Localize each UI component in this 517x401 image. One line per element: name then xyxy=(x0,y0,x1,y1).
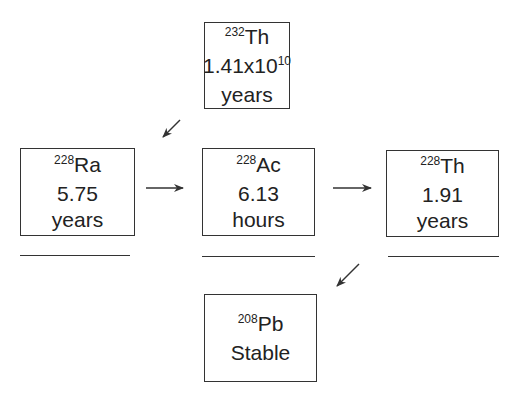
node-th228: 228Th 1.91 years xyxy=(386,150,499,237)
node-pb208: 208Pb Stable xyxy=(204,294,317,382)
node-ac228-isotope: 228Ac xyxy=(236,152,281,181)
node-ra228-halflife: 5.75 xyxy=(57,181,98,207)
node-th228-isotope: 228Th xyxy=(420,153,465,182)
node-th232-isotope: 232Th xyxy=(225,24,270,53)
node-ac228: 228Ac 6.13 hours xyxy=(202,148,315,236)
node-th232-unit: years xyxy=(221,82,272,108)
node-th228-unit: years xyxy=(417,208,468,234)
arrow-th228-to-pb208 xyxy=(337,264,359,286)
node-ra228-underline xyxy=(20,255,130,256)
node-ac228-underline xyxy=(202,256,315,257)
node-ac228-unit: hours xyxy=(232,207,285,233)
node-ra228-isotope: 228Ra xyxy=(54,152,101,181)
node-th232: 232Th 1.41x1010 years xyxy=(204,22,290,109)
node-ra228: 228Ra 5.75 years xyxy=(20,148,135,236)
node-th228-underline xyxy=(388,256,499,257)
node-ac228-halflife: 6.13 xyxy=(238,181,279,207)
node-th232-halflife: 1.41x1010 xyxy=(203,53,291,82)
arrow-th232-to-ra228 xyxy=(163,120,180,137)
node-pb208-halflife: Stable xyxy=(231,340,291,366)
node-ra228-unit: years xyxy=(52,207,103,233)
node-pb208-isotope: 208Pb xyxy=(238,311,284,340)
node-th228-halflife: 1.91 xyxy=(422,182,463,208)
